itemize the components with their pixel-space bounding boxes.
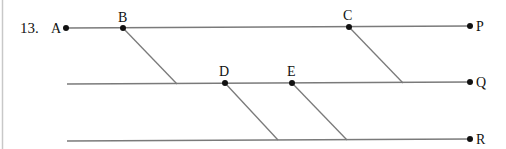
line-q	[67, 82, 470, 84]
transversal-c	[349, 27, 403, 83]
label-d: D	[219, 64, 229, 79]
label-c: C	[343, 8, 352, 23]
label-r: R	[476, 132, 486, 147]
label-b: B	[118, 10, 127, 25]
label-p: P	[476, 19, 484, 34]
line-ap	[66, 26, 470, 28]
transversal-b	[123, 28, 177, 84]
problem-number: 13.	[20, 20, 39, 36]
label-q: Q	[476, 75, 486, 90]
line-r	[67, 139, 470, 141]
point-q	[467, 79, 473, 85]
label-e: E	[287, 64, 296, 79]
point-p	[467, 23, 473, 29]
parallel-lines-diagram: 13. A B C P D E Q R	[0, 0, 506, 149]
transversal-d	[225, 83, 278, 140]
transversal-e	[292, 83, 347, 140]
point-b	[120, 25, 126, 31]
point-e	[289, 80, 295, 86]
point-a	[63, 25, 69, 31]
point-r	[467, 136, 473, 142]
label-a: A	[51, 21, 62, 36]
point-c	[346, 24, 352, 30]
point-d	[222, 80, 228, 86]
